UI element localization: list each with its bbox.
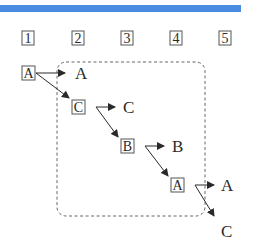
node-3-label: B bbox=[123, 139, 132, 154]
step-2-label: 2 bbox=[75, 31, 82, 46]
step-1-label: 1 bbox=[25, 31, 32, 46]
node-1: A bbox=[22, 66, 35, 81]
output-4: A bbox=[221, 176, 234, 195]
node-4-label: A bbox=[172, 178, 183, 193]
output-1: A bbox=[75, 64, 88, 83]
header-bar bbox=[0, 5, 241, 12]
output-3: B bbox=[172, 137, 183, 156]
node-2: C bbox=[72, 100, 85, 115]
step-5: 5 bbox=[219, 31, 231, 46]
step-5-label: 5 bbox=[222, 31, 229, 46]
step-3-label: 3 bbox=[124, 31, 131, 46]
step-4-label: 4 bbox=[173, 31, 180, 46]
diagram-canvas: 1 2 3 4 5 A C B A A C B bbox=[0, 0, 266, 252]
arrow-n3-n4 bbox=[145, 146, 168, 176]
step-2: 2 bbox=[72, 31, 84, 46]
arrow-n1-n2 bbox=[36, 73, 69, 98]
node-2-label: C bbox=[74, 100, 83, 115]
output-5: C bbox=[221, 222, 232, 241]
step-1: 1 bbox=[22, 31, 34, 46]
node-4: A bbox=[171, 178, 184, 193]
node-3: B bbox=[121, 139, 134, 154]
step-3: 3 bbox=[121, 31, 133, 46]
step-4: 4 bbox=[170, 31, 182, 46]
arrow-n4-out-c bbox=[195, 185, 214, 216]
arrow-n2-n3 bbox=[96, 107, 118, 137]
node-1-label: A bbox=[23, 66, 34, 81]
output-2: C bbox=[123, 98, 134, 117]
